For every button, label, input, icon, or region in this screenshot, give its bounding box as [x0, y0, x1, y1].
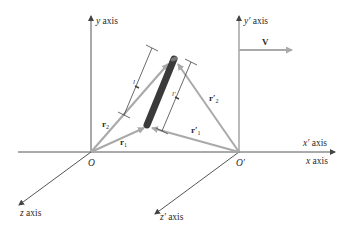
- z-prime-axis-label: z′ axis: [159, 212, 184, 222]
- origin-o-label: O: [88, 158, 95, 168]
- length-l-prime-label: l′: [172, 90, 176, 98]
- x-axis-label: x axis: [305, 156, 328, 166]
- vector-r1: [91, 128, 144, 152]
- x-prime-axis-label: x′ axis: [302, 138, 327, 148]
- z-axis: [19, 152, 91, 205]
- r2-label: r2: [102, 119, 109, 130]
- y-prime-axis-label: y′ axis: [243, 16, 268, 26]
- relativity-diagram: y axis y′ axis x′ axis x axis z axis z′ …: [0, 0, 353, 233]
- velocity-label: V: [262, 37, 269, 47]
- r1-prime-label: r′1: [191, 125, 201, 136]
- z-prime-axis: [155, 152, 239, 214]
- r1-label: r1: [120, 137, 127, 148]
- r2-prime-label: r′2: [209, 93, 219, 104]
- y-axis-label: y axis: [95, 16, 118, 26]
- origin-o-prime-label: O′: [236, 158, 246, 168]
- vector-r2-prime: [178, 64, 239, 152]
- length-l-label: l: [133, 78, 135, 86]
- z-axis-label: z axis: [19, 208, 42, 218]
